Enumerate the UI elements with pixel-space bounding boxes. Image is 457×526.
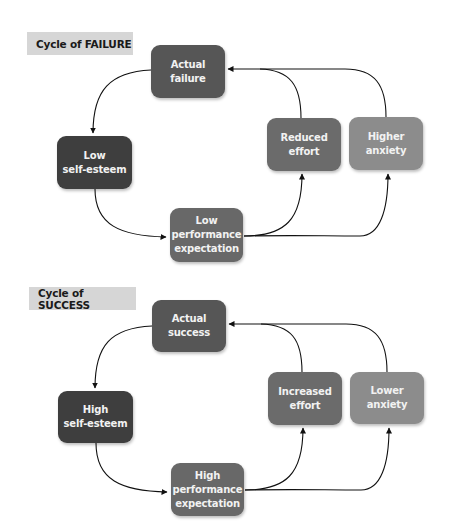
success-cycle-title: Cycle of SUCCESS	[29, 287, 136, 310]
node-label-line: expectation	[175, 497, 240, 511]
node-label-line: effort	[289, 145, 320, 159]
node-label-line: Actual	[172, 312, 207, 326]
node-label-line: Actual	[171, 58, 206, 72]
low-self-esteem-node: Low self-esteem	[57, 136, 132, 189]
increased-effort-node: Increased effort	[268, 372, 342, 425]
node-label-line: anxiety	[366, 144, 406, 158]
high-self-esteem-node: High self-esteem	[58, 391, 133, 443]
reduced-effort-node: Reduced effort	[267, 118, 341, 171]
node-label-line: success	[168, 326, 210, 340]
node-label-line: Lower	[370, 384, 403, 398]
node-label-line: performance	[173, 483, 243, 497]
node-label-line: Higher	[368, 130, 405, 144]
node-label-line: Low	[196, 214, 218, 228]
node-label-line: Reduced	[280, 131, 327, 145]
node-label-line: High	[195, 469, 220, 483]
node-label-line: expectation	[174, 242, 239, 256]
actual-failure-node: Actual failure	[151, 45, 225, 98]
node-label-line: anxiety	[367, 398, 407, 412]
failure-cycle-title-text: Cycle of FAILURE	[36, 38, 132, 50]
node-label-line: Low	[84, 149, 106, 163]
node-label-line: failure	[170, 72, 205, 86]
lower-anxiety-node: Lower anxiety	[350, 372, 424, 424]
node-label-line: Increased	[278, 385, 331, 399]
node-label-line: High	[83, 403, 108, 417]
actual-success-node: Actual success	[152, 300, 226, 352]
success-cycle-title-text: Cycle of SUCCESS	[38, 287, 136, 311]
higher-anxiety-node: Higher anxiety	[349, 117, 423, 170]
node-label-line: performance	[172, 228, 242, 242]
node-label-line: self-esteem	[64, 417, 128, 431]
node-label-line: effort	[290, 399, 321, 413]
low-performance-expectation-node: Low performance expectation	[170, 208, 243, 262]
failure-cycle-title: Cycle of FAILURE	[27, 32, 133, 55]
node-label-line: self-esteem	[63, 163, 127, 177]
high-performance-expectation-node: High performance expectation	[171, 463, 244, 516]
cycle-arrows	[0, 0, 457, 526]
